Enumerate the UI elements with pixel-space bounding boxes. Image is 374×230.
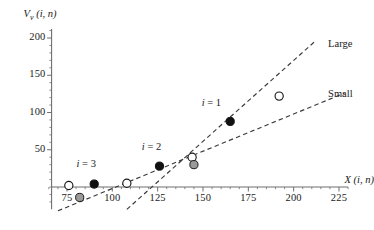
x-tick-label: 150: [193, 192, 213, 203]
data-point-open: [188, 153, 196, 161]
data-point-black: [226, 117, 234, 125]
data-point-open: [275, 92, 283, 100]
trend-line-large: [127, 41, 316, 209]
x-tick-label: 125: [148, 192, 168, 203]
x-tick-label: 200: [284, 192, 304, 203]
y-tick-label: 50: [20, 143, 46, 154]
x-tick-label: 175: [238, 192, 258, 203]
x-tick-label: 100: [102, 192, 122, 203]
x-axis-title: X (i, n): [344, 174, 373, 185]
x-tick-label: 75: [57, 192, 77, 203]
y-axis-title: Vv (i, n): [24, 8, 57, 22]
y-tick-label: 150: [20, 68, 46, 79]
data-markers-group: [65, 92, 284, 202]
y-tick-label: 100: [20, 106, 46, 117]
data-point-open: [123, 179, 131, 187]
point-annotation: i = 2: [142, 141, 161, 152]
point-annotation: i = 3: [77, 158, 96, 169]
data-point-black: [155, 162, 163, 170]
point-annotation: i = 1: [202, 97, 221, 108]
data-point-gray: [190, 161, 198, 169]
y-tick-label: 200: [20, 31, 46, 42]
data-point-black: [90, 180, 98, 188]
series-label-small: Small: [328, 88, 353, 99]
series-label-large: Large: [328, 38, 352, 49]
data-point-open: [65, 181, 73, 189]
trend-lines-group: [58, 41, 345, 211]
x-tick-label: 225: [329, 192, 349, 203]
